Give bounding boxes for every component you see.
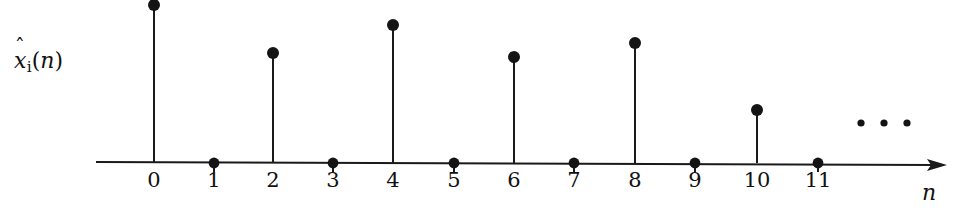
zero-sample-marker-n7 [569, 158, 580, 169]
x-tick-label-5: 5 [447, 170, 460, 191]
sample-marker-n8 [629, 37, 641, 49]
ellipsis-dots-group [857, 119, 910, 126]
sample-marker-n0 [148, 0, 160, 11]
x-tick-label-2: 2 [266, 170, 279, 191]
ellipsis-dot-3 [903, 119, 910, 126]
x-tick-label-11: 11 [805, 170, 832, 191]
zero-sample-marker-n1 [209, 158, 220, 169]
zero-sample-marker-n9 [690, 158, 701, 169]
ellipsis-dot-1 [857, 119, 864, 126]
sample-marker-n4 [387, 19, 399, 31]
sample-marker-n6 [508, 51, 520, 63]
sample-markers-group [148, 0, 823, 168]
zero-sample-marker-n3 [328, 158, 339, 169]
x-tick-label-3: 3 [326, 170, 339, 191]
stems-group [154, 5, 757, 163]
x-tick-label-1: 1 [207, 170, 220, 191]
x-tick-label-9: 9 [688, 170, 701, 191]
zero-sample-marker-n11 [813, 158, 824, 169]
x-tick-label-0: 0 [147, 170, 160, 191]
sample-marker-n2 [267, 47, 279, 59]
sample-marker-n10 [751, 104, 763, 116]
zero-sample-marker-n5 [449, 158, 460, 169]
y-axis-label: xˆi(n) [14, 50, 63, 75]
y-label-paren-open: ( [32, 48, 41, 73]
ellipsis-dot-2 [880, 119, 887, 126]
x-tick-label-8: 8 [628, 170, 641, 191]
x-tick-label-4: 4 [386, 170, 399, 191]
y-label-hat: ˆ [15, 37, 25, 57]
x-tick-label-6: 6 [507, 170, 520, 191]
x-tick-label-10: 10 [744, 170, 771, 191]
x-axis-label: n [922, 182, 936, 204]
y-label-argument: n [40, 48, 54, 73]
x-tick-label-7: 7 [567, 170, 580, 191]
y-label-paren-close: ) [54, 48, 63, 73]
stem-plot-figure: 01234567891011 xˆi(n) n [0, 0, 970, 217]
